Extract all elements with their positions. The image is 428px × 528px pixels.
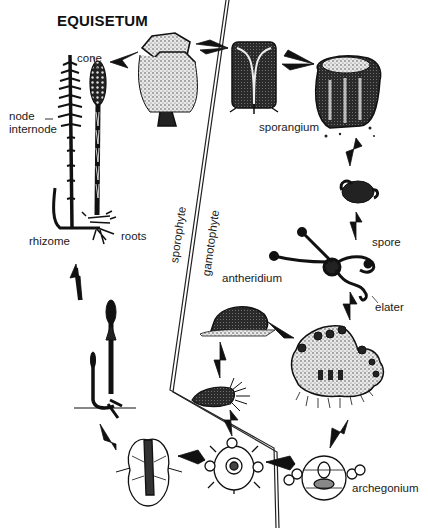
arrow-to-spore-elaters bbox=[350, 212, 362, 240]
label-archegonium: archegonium bbox=[352, 483, 418, 495]
arrow-to-spore-coiled bbox=[346, 138, 362, 166]
arrow-to-embryo bbox=[178, 450, 205, 464]
sporangiophore-section-drawing bbox=[230, 42, 278, 114]
gametophyte-drawing bbox=[292, 326, 384, 408]
label-sporangium: sporangium bbox=[259, 122, 319, 134]
equisetum-life-cycle-diagram: EQUISETUM bbox=[0, 0, 428, 528]
arrow-to-sperm bbox=[214, 342, 226, 378]
embryo-drawing bbox=[116, 439, 182, 506]
arrow-to-gametophyte bbox=[343, 292, 357, 320]
arrow-to-young-sporophyte bbox=[100, 424, 116, 450]
arrow-to-sporangium bbox=[282, 50, 314, 70]
label-spore: spore bbox=[372, 237, 401, 249]
arrow-to-archegonium bbox=[330, 420, 348, 448]
antheridium-drawing bbox=[200, 307, 275, 336]
label-elater: elater bbox=[375, 302, 404, 314]
arrow-to-zygote bbox=[224, 410, 238, 436]
label-roots: roots bbox=[121, 231, 147, 243]
young-sporophyte-drawing bbox=[74, 300, 136, 418]
label-cone: cone bbox=[77, 53, 102, 65]
label-internode: internode bbox=[9, 124, 57, 136]
mature-sporophyte-plant bbox=[54, 55, 116, 244]
label-antheridium: antheridium bbox=[222, 273, 282, 285]
zygote-drawing bbox=[205, 438, 263, 494]
spore-with-elaters-drawing bbox=[271, 229, 374, 300]
sporangium-drawing bbox=[316, 56, 381, 138]
label-node: node bbox=[9, 111, 35, 123]
sperm-drawing bbox=[192, 378, 250, 411]
arrow-to-cone-section bbox=[110, 52, 138, 68]
spore-coiled-drawing bbox=[341, 181, 378, 203]
arrow-archegonium-to-zygote bbox=[266, 456, 295, 470]
cone-section-drawing bbox=[138, 33, 197, 126]
diagram-drawing bbox=[0, 0, 428, 528]
label-rhizome: rhizome bbox=[29, 236, 70, 248]
